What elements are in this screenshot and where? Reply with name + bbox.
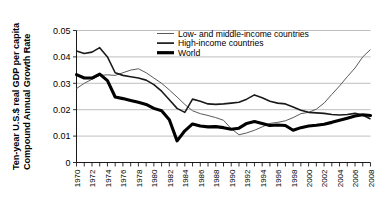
x-tick-label: 2008 <box>367 169 376 187</box>
x-tick-label: 1996 <box>274 169 283 187</box>
series-line-world <box>77 74 371 141</box>
y-tick-label: 0.05 <box>53 26 71 36</box>
y-tick-label: 0.03 <box>53 79 71 89</box>
legend-label: World <box>178 48 201 58</box>
y-axis-label-line-2: Compound Annual Growth Rate <box>22 34 32 170</box>
y-tick-label: 0.01 <box>53 131 71 141</box>
y-tick-label: 0.02 <box>53 105 71 115</box>
x-tick-label: 1998 <box>290 169 299 187</box>
chart-figure: Ten-year U.S.$ real GDP per capita Compo… <box>0 0 379 208</box>
data-series-group <box>77 48 371 141</box>
chart-legend: Low- and middle-income countriesHigh-inc… <box>157 29 309 58</box>
x-tick-label: 1992 <box>243 169 252 187</box>
x-tick-label: 1972 <box>88 169 97 187</box>
y-axis-label-line-1: Ten-year U.S.$ real GDP per capita <box>11 23 21 170</box>
x-tick-label: 1988 <box>212 169 221 187</box>
y-tick-label: 0.04 <box>53 52 71 62</box>
x-tick-label: 1984 <box>181 169 190 187</box>
x-tick-label: 2004 <box>336 169 345 187</box>
x-tick-label: 1978 <box>135 169 144 187</box>
x-tick-label: 1994 <box>259 169 268 187</box>
series-line-low-and-middle-income-countries <box>77 50 371 135</box>
x-tick-label: 1982 <box>166 169 175 187</box>
y-tick-label: 0 <box>65 158 70 168</box>
x-tick-label: 2006 <box>351 169 360 187</box>
legend-label: Low- and middle-income countries <box>178 29 309 39</box>
x-tick-label: 1970 <box>73 169 82 187</box>
x-tick-label: 1990 <box>228 169 237 187</box>
x-axis-ticks <box>77 163 371 167</box>
legend-label: High-income countries <box>178 38 264 48</box>
x-tick-label: 1976 <box>119 169 128 187</box>
x-axis-tick-labels: 1970197219741976197819801982198419861988… <box>73 169 376 187</box>
y-axis-ticks: 0.050.040.030.020.010 <box>53 26 77 168</box>
plot-area: 0.050.040.030.020.010 197019721974197619… <box>0 0 379 208</box>
x-tick-label: 1974 <box>104 169 113 187</box>
x-tick-label: 2002 <box>320 169 329 187</box>
y-axis-label: Ten-year U.S.$ real GDP per capita Compo… <box>0 0 36 190</box>
x-tick-label: 2000 <box>305 169 314 187</box>
x-tick-label: 1986 <box>197 169 206 187</box>
x-tick-label: 1980 <box>150 169 159 187</box>
